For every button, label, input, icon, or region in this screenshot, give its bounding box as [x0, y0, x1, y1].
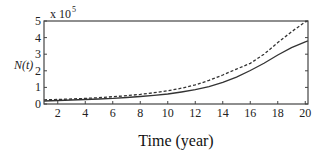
- x-tick-label: 14: [217, 106, 229, 120]
- plot-frame: [44, 21, 308, 104]
- x-tick-label: 20: [299, 106, 311, 120]
- y-multiplier: x 10 5: [50, 5, 76, 21]
- x-tick-label: 8: [137, 106, 143, 120]
- plot-lines: [44, 21, 308, 101]
- y-axis-label: N(t): [13, 58, 33, 72]
- x-tick-label: 12: [189, 106, 201, 120]
- x-tick-label: 10: [162, 106, 174, 120]
- y-tick-label: 1: [35, 80, 41, 94]
- x-axis-label: Time (year): [138, 132, 213, 150]
- y-tick-label: 0: [35, 97, 41, 111]
- solid-line: [44, 41, 308, 101]
- y-tick-label: 2: [35, 64, 41, 78]
- x-tick-label: 16: [244, 106, 256, 120]
- y-tick-label: 4: [35, 31, 41, 45]
- x-tick-label: 4: [82, 106, 88, 120]
- x-tick-label: 18: [272, 106, 284, 120]
- chart: x 10 5 N(t) 2468101214161820012345 Time …: [0, 0, 324, 158]
- y-multiplier-text: x 10: [50, 7, 71, 21]
- y-tick-label: 5: [35, 14, 41, 28]
- x-tick-label: 6: [110, 106, 116, 120]
- y-multiplier-exp: 5: [72, 5, 76, 14]
- y-tick-label: 3: [35, 47, 41, 61]
- x-tick-label: 2: [55, 106, 61, 120]
